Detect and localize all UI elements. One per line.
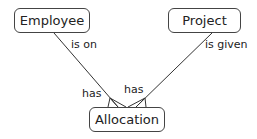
entity-allocation: Allocation bbox=[89, 107, 165, 132]
relationship-label-has-right: has bbox=[124, 83, 143, 96]
entity-employee: Employee bbox=[14, 8, 90, 33]
relationship-label-is-given: is given bbox=[205, 38, 248, 51]
entity-project: Project bbox=[168, 8, 241, 33]
entity-label: Allocation bbox=[95, 112, 159, 127]
entity-label: Employee bbox=[20, 13, 84, 28]
relationship-label-has-left: has bbox=[82, 87, 101, 100]
entity-label: Project bbox=[182, 13, 226, 28]
relationship-label-is-on: is on bbox=[71, 38, 97, 51]
